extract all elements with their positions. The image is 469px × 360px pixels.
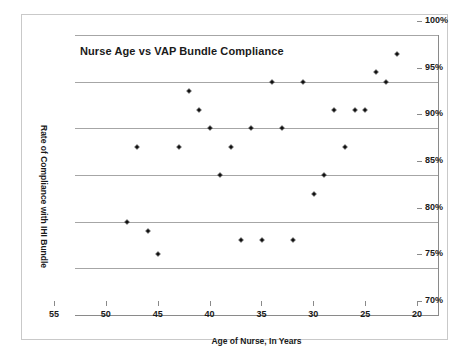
data-point <box>136 146 139 149</box>
x-tick-20 <box>417 301 418 306</box>
x-tick-label-45: 45 <box>153 310 163 319</box>
y-tick-label-70: 70% <box>425 296 443 305</box>
y-axis-line <box>438 35 439 316</box>
y-tick-100 <box>417 21 422 22</box>
data-point <box>156 253 159 256</box>
data-point <box>343 146 346 149</box>
data-point <box>354 108 357 111</box>
x-tick-label-50: 50 <box>101 310 111 319</box>
gridline-y-90 <box>75 128 438 129</box>
x-tick-45 <box>158 301 159 306</box>
data-point <box>395 52 398 55</box>
x-tick-50 <box>106 301 107 306</box>
data-point <box>385 80 388 83</box>
data-point <box>198 108 201 111</box>
data-point <box>250 127 253 130</box>
gridline-y-80 <box>75 222 438 223</box>
data-point <box>364 108 367 111</box>
x-tick-40 <box>210 301 211 306</box>
y-tick-label-95: 95% <box>425 63 443 72</box>
x-tick-55 <box>54 301 55 306</box>
x-tick-label-30: 30 <box>308 310 318 319</box>
y-tick-90 <box>417 114 422 115</box>
x-tick-25 <box>365 301 366 306</box>
y-tick-80 <box>417 208 422 209</box>
x-tick-35 <box>261 301 262 306</box>
data-point <box>188 90 191 93</box>
x-tick-label-20: 20 <box>412 310 422 319</box>
y-tick-label-90: 90% <box>425 109 443 118</box>
x-tick-label-35: 35 <box>256 310 266 319</box>
data-point <box>177 146 180 149</box>
data-point <box>208 127 211 130</box>
data-point <box>322 174 325 177</box>
plot-area <box>75 35 438 315</box>
x-axis-title: Age of Nurse, In Years <box>75 336 438 346</box>
y-tick-95 <box>417 68 422 69</box>
data-point <box>281 127 284 130</box>
gridline-y-85 <box>75 175 438 176</box>
x-tick-label-40: 40 <box>205 310 215 319</box>
x-tick-30 <box>313 301 314 306</box>
y-tick-label-75: 75% <box>425 249 443 258</box>
data-point <box>333 108 336 111</box>
gridline-y-75 <box>75 268 438 269</box>
data-point <box>260 239 263 242</box>
chart-frame: Nurse Age vs VAP Bundle Compliance Rate … <box>21 14 448 340</box>
y-tick-75 <box>417 254 422 255</box>
y-tick-label-100: 100% <box>425 16 448 25</box>
y-tick-label-85: 85% <box>425 156 443 165</box>
y-tick-85 <box>417 161 422 162</box>
x-tick-label-55: 55 <box>49 310 59 319</box>
y-axis-title: Rate of Compliance with IHI Bundle <box>39 125 49 268</box>
data-point <box>312 192 315 195</box>
y-tick-label-80: 80% <box>425 203 443 212</box>
data-point <box>146 230 149 233</box>
x-tick-label-25: 25 <box>360 310 370 319</box>
data-point <box>291 239 294 242</box>
data-point <box>302 80 305 83</box>
data-point <box>125 220 128 223</box>
gridline-y-100 <box>75 35 438 36</box>
data-point <box>219 174 222 177</box>
data-point <box>374 71 377 74</box>
data-point <box>239 239 242 242</box>
data-point <box>229 146 232 149</box>
data-point <box>271 80 274 83</box>
